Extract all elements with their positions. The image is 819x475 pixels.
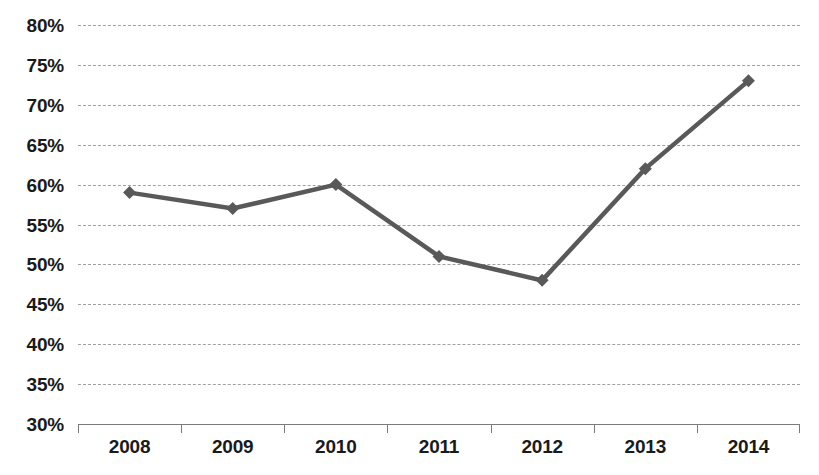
x-axis-tick	[284, 424, 285, 433]
x-tick-label: 2012	[521, 437, 562, 456]
gridline	[78, 225, 800, 226]
x-axis-left-endcap	[78, 424, 79, 433]
gridline	[78, 65, 800, 66]
x-axis-tick	[181, 424, 182, 433]
x-tick-label: 2013	[625, 437, 666, 456]
gridline	[78, 344, 800, 345]
y-tick-label: 40%	[27, 335, 64, 354]
y-tick-label: 65%	[27, 135, 64, 154]
y-axis: 80%75%70%65%60%55%50%45%40%35%30%	[0, 0, 70, 475]
plot-area	[78, 25, 800, 424]
x-axis-right-endcap	[799, 424, 800, 433]
y-tick-label: 70%	[27, 95, 64, 114]
y-tick-label: 55%	[27, 215, 64, 234]
gridline	[78, 304, 800, 305]
x-tick-label: 2011	[419, 437, 459, 456]
gridline	[78, 264, 800, 265]
gridline	[78, 105, 800, 106]
y-tick-label: 30%	[27, 415, 64, 434]
gridline	[78, 185, 800, 186]
gridline	[78, 25, 800, 26]
x-tick-label: 2010	[315, 437, 356, 456]
y-tick-label: 60%	[27, 175, 64, 194]
x-axis-tick	[697, 424, 698, 433]
x-axis-tick	[387, 424, 388, 433]
x-axis-tick	[491, 424, 492, 433]
x-axis-tick	[594, 424, 595, 433]
y-tick-label: 80%	[27, 16, 64, 35]
x-tick-label: 2008	[109, 437, 150, 456]
x-tick-label: 2014	[728, 437, 769, 456]
line-chart: 80%75%70%65%60%55%50%45%40%35%30% 200820…	[0, 0, 819, 475]
x-axis-line	[78, 424, 800, 425]
y-tick-label: 50%	[27, 255, 64, 274]
y-tick-label: 75%	[27, 55, 64, 74]
x-tick-label: 2009	[212, 437, 253, 456]
y-tick-label: 45%	[27, 295, 64, 314]
y-tick-label: 35%	[27, 375, 64, 394]
gridline	[78, 145, 800, 146]
gridline	[78, 384, 800, 385]
